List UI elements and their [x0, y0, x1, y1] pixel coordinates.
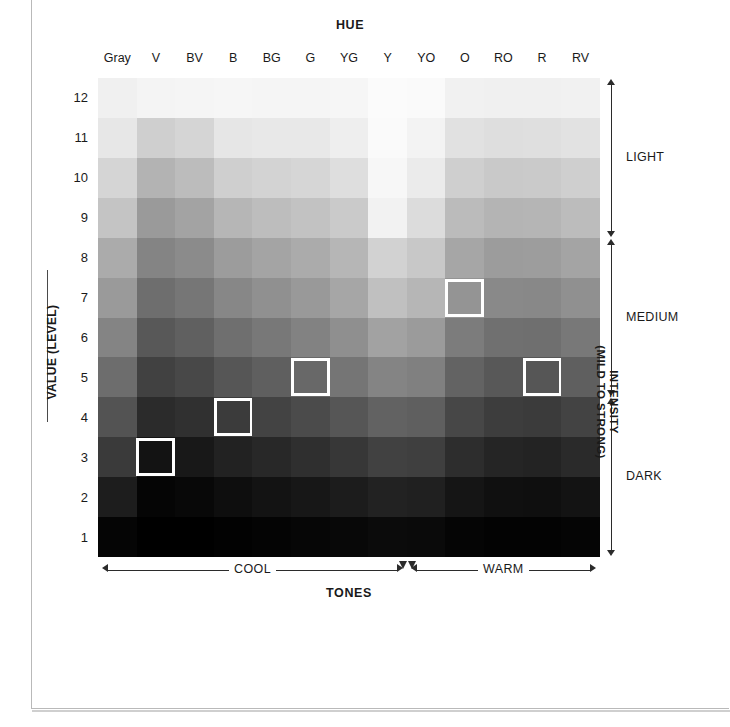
swatch-yg-9[interactable]	[330, 198, 369, 238]
swatch-bg-7[interactable]	[252, 278, 291, 318]
swatch-g-6[interactable]	[291, 318, 330, 358]
swatch-v-7[interactable]	[137, 278, 176, 318]
swatch-yo-5[interactable]	[407, 357, 446, 397]
swatch-y-1[interactable]	[368, 517, 407, 557]
swatch-y-11[interactable]	[368, 118, 407, 158]
swatch-b-6[interactable]	[214, 318, 253, 358]
swatch-bg-5[interactable]	[252, 357, 291, 397]
swatch-yo-2[interactable]	[407, 477, 446, 517]
swatch-g-1[interactable]	[291, 517, 330, 557]
swatch-o-7[interactable]	[445, 278, 484, 318]
swatch-bg-1[interactable]	[252, 517, 291, 557]
swatch-r-3[interactable]	[523, 437, 562, 477]
swatch-yo-1[interactable]	[407, 517, 446, 557]
swatch-g-4[interactable]	[291, 397, 330, 437]
swatch-yg-4[interactable]	[330, 397, 369, 437]
swatch-bg-12[interactable]	[252, 78, 291, 118]
swatch-rv-9[interactable]	[561, 198, 600, 238]
swatch-b-12[interactable]	[214, 78, 253, 118]
swatch-gray-4[interactable]	[98, 397, 137, 437]
swatch-yg-7[interactable]	[330, 278, 369, 318]
swatch-y-10[interactable]	[368, 158, 407, 198]
swatch-gray-7[interactable]	[98, 278, 137, 318]
swatch-g-3[interactable]	[291, 437, 330, 477]
swatch-b-7[interactable]	[214, 278, 253, 318]
swatch-gray-11[interactable]	[98, 118, 137, 158]
swatch-y-2[interactable]	[368, 477, 407, 517]
swatch-b-9[interactable]	[214, 198, 253, 238]
swatch-yg-8[interactable]	[330, 238, 369, 278]
swatch-y-7[interactable]	[368, 278, 407, 318]
swatch-yg-11[interactable]	[330, 118, 369, 158]
swatch-o-6[interactable]	[445, 318, 484, 358]
swatch-yo-12[interactable]	[407, 78, 446, 118]
swatch-v-3[interactable]	[137, 437, 176, 477]
swatch-r-11[interactable]	[523, 118, 562, 158]
swatch-bv-7[interactable]	[175, 278, 214, 318]
swatch-o-3[interactable]	[445, 437, 484, 477]
swatch-ro-12[interactable]	[484, 78, 523, 118]
swatch-ro-3[interactable]	[484, 437, 523, 477]
swatch-bv-5[interactable]	[175, 357, 214, 397]
swatch-g-2[interactable]	[291, 477, 330, 517]
swatch-gray-6[interactable]	[98, 318, 137, 358]
swatch-bg-9[interactable]	[252, 198, 291, 238]
swatch-yg-3[interactable]	[330, 437, 369, 477]
swatch-r-8[interactable]	[523, 238, 562, 278]
swatch-yo-3[interactable]	[407, 437, 446, 477]
swatch-v-5[interactable]	[137, 357, 176, 397]
swatch-o-9[interactable]	[445, 198, 484, 238]
swatch-r-1[interactable]	[523, 517, 562, 557]
swatch-bv-1[interactable]	[175, 517, 214, 557]
swatch-o-5[interactable]	[445, 357, 484, 397]
swatch-g-5[interactable]	[291, 357, 330, 397]
swatch-r-9[interactable]	[523, 198, 562, 238]
swatch-bv-11[interactable]	[175, 118, 214, 158]
swatch-bv-12[interactable]	[175, 78, 214, 118]
swatch-g-12[interactable]	[291, 78, 330, 118]
swatch-yo-10[interactable]	[407, 158, 446, 198]
swatch-gray-5[interactable]	[98, 357, 137, 397]
swatch-g-7[interactable]	[291, 278, 330, 318]
swatch-bv-9[interactable]	[175, 198, 214, 238]
swatch-bg-11[interactable]	[252, 118, 291, 158]
swatch-o-4[interactable]	[445, 397, 484, 437]
swatch-v-8[interactable]	[137, 238, 176, 278]
swatch-v-4[interactable]	[137, 397, 176, 437]
swatch-o-12[interactable]	[445, 78, 484, 118]
swatch-yg-12[interactable]	[330, 78, 369, 118]
swatch-bv-10[interactable]	[175, 158, 214, 198]
swatch-yo-7[interactable]	[407, 278, 446, 318]
swatch-b-8[interactable]	[214, 238, 253, 278]
swatch-bv-3[interactable]	[175, 437, 214, 477]
swatch-rv-1[interactable]	[561, 517, 600, 557]
swatch-ro-2[interactable]	[484, 477, 523, 517]
swatch-b-4[interactable]	[214, 397, 253, 437]
swatch-v-11[interactable]	[137, 118, 176, 158]
swatch-b-1[interactable]	[214, 517, 253, 557]
swatch-yg-10[interactable]	[330, 158, 369, 198]
swatch-yo-11[interactable]	[407, 118, 446, 158]
swatch-r-5[interactable]	[523, 357, 562, 397]
swatch-g-10[interactable]	[291, 158, 330, 198]
swatch-gray-1[interactable]	[98, 517, 137, 557]
swatch-yg-2[interactable]	[330, 477, 369, 517]
swatch-bg-10[interactable]	[252, 158, 291, 198]
swatch-bg-2[interactable]	[252, 477, 291, 517]
swatch-r-6[interactable]	[523, 318, 562, 358]
swatch-yg-1[interactable]	[330, 517, 369, 557]
swatch-yg-5[interactable]	[330, 357, 369, 397]
swatch-v-6[interactable]	[137, 318, 176, 358]
swatch-yg-6[interactable]	[330, 318, 369, 358]
swatch-b-3[interactable]	[214, 437, 253, 477]
swatch-rv-8[interactable]	[561, 238, 600, 278]
swatch-y-6[interactable]	[368, 318, 407, 358]
swatch-rv-10[interactable]	[561, 158, 600, 198]
swatch-y-3[interactable]	[368, 437, 407, 477]
swatch-r-7[interactable]	[523, 278, 562, 318]
swatch-v-10[interactable]	[137, 158, 176, 198]
swatch-yo-6[interactable]	[407, 318, 446, 358]
swatch-rv-11[interactable]	[561, 118, 600, 158]
swatch-ro-7[interactable]	[484, 278, 523, 318]
swatch-gray-3[interactable]	[98, 437, 137, 477]
